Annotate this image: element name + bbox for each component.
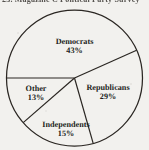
pie-slice-label-other: Other 13% <box>8 84 64 102</box>
pie-slice-percent-democrats: 43% <box>0 46 149 55</box>
pie-slice-percent-independents: 15% <box>30 129 102 138</box>
pie-slice-name-other: Other <box>26 84 47 93</box>
pie-slice-name-republicans: Republicans <box>86 83 129 92</box>
pie-slice-name-independents: Independents <box>42 120 89 129</box>
pie-slice-name-democrats: Democrats <box>56 37 94 46</box>
pie-slice-label-republicans: Republicans 29% <box>74 83 142 101</box>
pie-slice-percent-other: 13% <box>8 93 64 102</box>
scanned-page: 23. Magazine C Political Party Survey De… <box>0 0 149 150</box>
pie-slice-label-independents: Independents 15% <box>30 120 102 138</box>
pie-slice-percent-republicans: 29% <box>74 92 142 101</box>
pie-slice-label-democrats: Democrats 43% <box>0 37 149 55</box>
